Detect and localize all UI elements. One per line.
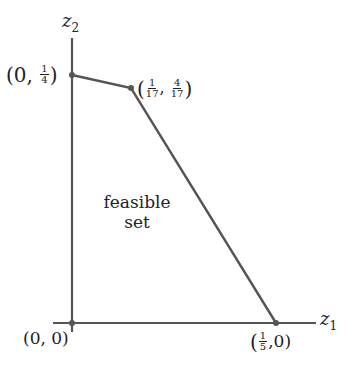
feasible-set-diagram xyxy=(0,0,346,376)
fraction-one-quarter: 14 xyxy=(40,64,48,85)
vertex-corner xyxy=(128,85,134,91)
denominator: 17 xyxy=(146,89,159,99)
label-y-intercept-prefix: (0, xyxy=(6,63,39,87)
label-corner: (117, 417) xyxy=(137,78,192,99)
vertex-y-intercept xyxy=(69,72,75,78)
open-paren: ( xyxy=(137,77,145,101)
feasible-set-label-line2: set xyxy=(94,212,180,232)
label-origin-text: (0, 0) xyxy=(23,328,69,348)
feasible-set-label-line1: feasible xyxy=(94,192,180,212)
fraction-one-fifth: 15 xyxy=(259,331,267,352)
z1-axis-label: z1 xyxy=(320,310,337,332)
denominator: 17 xyxy=(171,89,184,99)
label-x-intercept-suffix: ,0) xyxy=(268,331,291,351)
label-y-intercept: (0, 14) xyxy=(6,64,57,85)
z2-axis-label: z2 xyxy=(62,12,79,34)
open-paren: ( xyxy=(250,330,258,354)
z1-axis-subscript: 1 xyxy=(329,319,337,333)
label-origin: (0, 0) xyxy=(23,330,69,347)
fraction-four-seventeenths: 417 xyxy=(171,78,184,99)
denominator: 5 xyxy=(260,342,266,352)
fraction-one-seventeenth: 117 xyxy=(146,78,159,99)
feasible-set-label: feasible set xyxy=(94,192,180,233)
denominator: 4 xyxy=(41,75,47,85)
vertex-origin xyxy=(69,320,75,326)
close-paren: ) xyxy=(184,77,192,101)
z2-axis-subscript: 2 xyxy=(71,21,79,35)
vertex-x-intercept xyxy=(273,320,279,326)
label-x-intercept: (15,0) xyxy=(250,331,291,352)
comma: , xyxy=(160,78,170,97)
label-y-intercept-suffix: ) xyxy=(50,63,58,87)
